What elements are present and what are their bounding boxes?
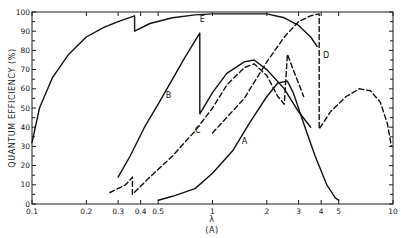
quantum-efficiency-chart: 0.10.20.30.40.51234510010203040506070809… bbox=[0, 0, 401, 238]
curve-c bbox=[110, 54, 304, 194]
x-tick-label: 4 bbox=[319, 207, 324, 216]
curve-a bbox=[158, 81, 339, 200]
curve-d bbox=[213, 14, 392, 147]
x-tick-label: 0.4 bbox=[135, 207, 147, 216]
y-tick-label: 100 bbox=[16, 8, 31, 17]
curve-b bbox=[118, 33, 311, 177]
y-tick-label: 30 bbox=[20, 142, 30, 151]
curve-label-c: C bbox=[195, 126, 201, 135]
curve-label-a: A bbox=[242, 137, 248, 146]
x-tick-label: 0.2 bbox=[80, 207, 92, 216]
axis-ticks: 0.10.20.30.40.51234510010203040506070809… bbox=[16, 8, 398, 217]
curve-label-d: D bbox=[323, 51, 329, 60]
y-tick-label: 70 bbox=[20, 65, 30, 74]
y-tick-label: 40 bbox=[20, 123, 30, 132]
y-axis-title: QUANTUM EFFICIENCY (%) bbox=[8, 48, 17, 167]
x-tick-label: 5 bbox=[336, 207, 341, 216]
curves bbox=[32, 14, 391, 200]
y-tick-label: 60 bbox=[20, 84, 30, 93]
y-tick-label: 90 bbox=[20, 27, 30, 36]
curve-label-b: B bbox=[166, 91, 172, 100]
y-tick-label: 10 bbox=[20, 180, 30, 189]
x-axis-unit: (A) bbox=[205, 226, 219, 235]
y-tick-label: 20 bbox=[20, 161, 30, 170]
y-tick-label: 0 bbox=[25, 200, 30, 209]
x-tick-label: 3 bbox=[296, 207, 301, 216]
y-tick-label: 50 bbox=[20, 104, 30, 113]
y-tick-label: 80 bbox=[20, 46, 30, 55]
x-tick-label: 2 bbox=[264, 207, 269, 216]
x-tick-label: 0.3 bbox=[112, 207, 124, 216]
curve-label-e: E bbox=[200, 15, 205, 24]
x-tick-label: 10 bbox=[388, 207, 398, 216]
x-tick-label: 0.5 bbox=[152, 207, 164, 216]
x-axis-title: λ bbox=[209, 215, 214, 224]
